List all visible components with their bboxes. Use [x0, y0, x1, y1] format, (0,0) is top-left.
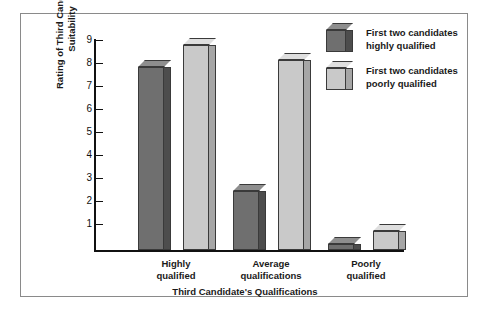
y-tick-4: 4: [96, 155, 103, 156]
x-category-line1: Highly: [121, 258, 231, 270]
bar-poorly-qualified-series2: [373, 231, 399, 250]
legend-swatch-light-icon: [326, 68, 346, 90]
bar-front-face: [373, 231, 399, 250]
bar-side-face: [164, 67, 171, 250]
x-category-label-average-qualifications: Average qualifications: [216, 258, 326, 282]
chart-legend: First two candidates highly qualified Fi…: [304, 22, 464, 98]
swatch-front-face: [326, 68, 346, 90]
bar-front-face: [183, 45, 209, 250]
y-tick-label-8: 8: [86, 56, 92, 69]
swatch-top-face: [326, 61, 353, 68]
x-axis-line: [94, 250, 404, 252]
bar-highly-qualified-series2: [183, 45, 209, 250]
x-category-line2: qualified: [121, 270, 231, 282]
swatch-side-face: [346, 68, 353, 90]
legend-label-line1: First two candidates: [366, 65, 458, 78]
bar-top-face: [183, 38, 216, 45]
legend-label-line2: highly qualified: [366, 40, 458, 53]
bar-poorly-qualified-series1: [328, 244, 354, 250]
legend-item-series1: First two candidates highly qualified: [304, 22, 464, 60]
bar-top-face: [328, 237, 361, 244]
bar-average-qualifications-series1: [233, 191, 259, 250]
legend-label-line1: First two candidates: [366, 27, 458, 40]
bar-side-face: [209, 45, 216, 250]
y-tick-label-9: 9: [86, 33, 92, 46]
y-tick-5: 5: [96, 132, 103, 133]
y-axis-line: [94, 39, 96, 252]
bar-average-qualifications-series2: [278, 60, 304, 250]
bar-top-face: [138, 60, 171, 67]
y-tick-label-3: 3: [86, 171, 92, 184]
bar-front-face: [138, 67, 164, 250]
y-tick-3: 3: [96, 178, 103, 179]
y-tick-label-5: 5: [86, 125, 92, 138]
y-tick-9: 9: [96, 40, 103, 41]
y-axis-title: Rating of Third Candidate's Suitability: [54, 0, 78, 89]
bar-side-face: [259, 191, 266, 250]
swatch-front-face: [326, 30, 346, 52]
bar-front-face: [233, 191, 259, 250]
y-tick-label-2: 2: [86, 194, 92, 207]
bar-top-face: [373, 224, 406, 231]
x-axis-title: Third Candidate's Qualifications: [21, 286, 469, 297]
y-tick-1: 1: [96, 224, 103, 225]
swatch-top-face: [326, 23, 353, 30]
x-category-line2: qualifications: [216, 270, 326, 282]
legend-label-series2: First two candidates poorly qualified: [366, 65, 458, 90]
bar-front-face: [278, 60, 304, 250]
chart-figure-frame: 9 8 7 6 5 4 3 2 1: [20, 13, 468, 297]
legend-item-series2: First two candidates poorly qualified: [304, 60, 464, 98]
y-tick-8: 8: [96, 63, 103, 64]
x-category-line1: Poorly: [311, 258, 421, 270]
y-tick-label-1: 1: [86, 217, 92, 230]
bar-front-face: [328, 244, 354, 250]
x-category-line2: qualified: [311, 270, 421, 282]
legend-label-series1: First two candidates highly qualified: [366, 27, 458, 52]
y-tick-7: 7: [96, 86, 103, 87]
legend-swatch-dark-icon: [326, 30, 346, 52]
legend-label-line2: poorly qualified: [366, 78, 458, 91]
y-axis-title-line2: Suitability: [66, 0, 78, 89]
bar-side-face: [399, 231, 406, 250]
bar-side-face: [354, 244, 361, 250]
y-tick-label-4: 4: [86, 148, 92, 161]
y-tick-label-6: 6: [86, 102, 92, 115]
swatch-side-face: [346, 30, 353, 52]
bar-top-face: [233, 184, 266, 191]
x-category-line1: Average: [216, 258, 326, 270]
bar-highly-qualified-series1: [138, 67, 164, 250]
y-tick-label-7: 7: [86, 79, 92, 92]
x-category-label-highly-qualified: Highly qualified: [121, 258, 231, 282]
y-tick-2: 2: [96, 201, 103, 202]
y-axis-title-line1: Rating of Third Candidate's: [54, 0, 66, 89]
x-category-label-poorly-qualified: Poorly qualified: [311, 258, 421, 282]
y-tick-6: 6: [96, 109, 103, 110]
